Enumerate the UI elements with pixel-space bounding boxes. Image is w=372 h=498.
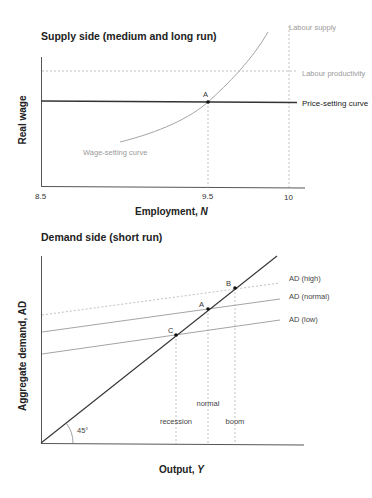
supply-chart-title: Supply side (medium and long run) xyxy=(41,30,217,42)
demand-x-axis-title: Output, Y xyxy=(159,464,205,475)
demand-x-axis xyxy=(41,444,304,446)
ad-high-line xyxy=(42,283,280,315)
ad-low-line xyxy=(42,320,280,354)
boom-label: boom xyxy=(226,417,245,426)
ad-normal-line xyxy=(42,299,280,332)
supply-point-a-label: A xyxy=(203,90,208,99)
ad-low-label: AD (low) xyxy=(289,315,318,324)
x-tick-10: 10 xyxy=(284,193,293,202)
x-tick-9-5: 9.5 xyxy=(202,192,214,201)
demand-side-chart: Demand side (short run) AD (high) AD (no… xyxy=(17,231,330,475)
demand-point-b-label: B xyxy=(226,279,231,288)
demand-point-b xyxy=(233,286,237,290)
demand-chart-title: Demand side (short run) xyxy=(41,231,162,243)
price-setting-curve xyxy=(41,101,297,103)
wage-setting-curve xyxy=(120,32,268,142)
angle-label: 45° xyxy=(77,426,88,435)
ad-high-label: AD (high) xyxy=(289,274,321,283)
demand-point-a-label: A xyxy=(199,300,204,309)
wage-setting-label: Wage-setting curve xyxy=(83,148,147,157)
recession-label: recession xyxy=(160,417,192,426)
supply-x-axis-title: Employment, N xyxy=(135,206,209,217)
supply-side-chart: Supply side (medium and long run) Labour… xyxy=(17,23,369,217)
labour-supply-label: Labour supply xyxy=(289,23,336,32)
normal-label: normal xyxy=(197,399,220,408)
angle-arc xyxy=(67,424,74,444)
price-setting-label: Price-setting curve xyxy=(302,99,369,108)
figure: Supply side (medium and long run) Labour… xyxy=(0,0,372,498)
supply-y-axis-title: Real wage xyxy=(17,95,28,144)
x-tick-8-5: 8.5 xyxy=(35,192,47,201)
demand-point-c xyxy=(174,333,178,337)
ad-normal-label: AD (normal) xyxy=(289,292,330,301)
demand-y-axis-title: Aggregate demand, AD xyxy=(17,301,28,411)
supply-x-axis xyxy=(41,187,305,189)
demand-point-c-label: C xyxy=(168,326,174,335)
demand-point-a xyxy=(206,307,210,311)
supply-point-a xyxy=(206,100,210,104)
labour-productivity-label: Labour productivity xyxy=(302,69,366,78)
